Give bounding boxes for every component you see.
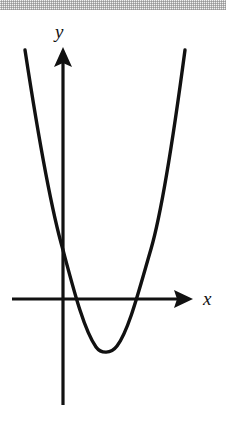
figure-canvas: y x	[0, 0, 226, 424]
x-axis-label: x	[203, 289, 211, 308]
coordinate-plot	[0, 0, 226, 424]
parabola-curve	[25, 50, 185, 352]
y-axis-label: y	[55, 22, 63, 41]
